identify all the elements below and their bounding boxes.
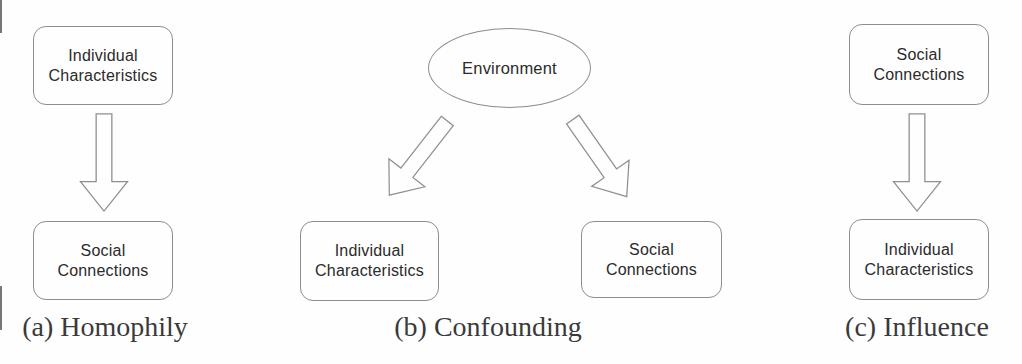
box-label-line: Characteristics (49, 66, 158, 86)
down-arrow-icon (78, 113, 130, 213)
ellipse-label: Environment (462, 59, 557, 78)
ellipse-environment: Environment (428, 28, 591, 108)
box-social-connections: Social Connections (849, 24, 989, 105)
box-label-line: Social (897, 45, 942, 65)
box-individual-characteristics: Individual Characteristics (33, 26, 173, 105)
box-label-line: Characteristics (865, 260, 974, 280)
box-individual-characteristics: Individual Characteristics (300, 221, 439, 301)
down-left-arrow-icon (368, 104, 469, 212)
box-label-line: Connections (873, 65, 964, 85)
down-right-arrow-icon (551, 104, 649, 213)
box-label-line: Individual (68, 46, 138, 66)
caption-homophily: (a) Homophily (5, 311, 205, 343)
box-label-line: Connections (57, 261, 148, 281)
box-label-line: Individual (884, 240, 954, 260)
scan-artifact-top-left (0, 0, 2, 33)
box-individual-characteristics: Individual Characteristics (849, 219, 989, 300)
caption-confounding: (b) Confounding (388, 311, 588, 343)
causal-diagrams-figure: Individual Characteristics Social Connec… (0, 0, 1022, 364)
box-label-line: Characteristics (315, 261, 424, 281)
caption-influence: (c) Influence (817, 311, 1017, 343)
box-social-connections: Social Connections (33, 221, 173, 300)
box-label-line: Social (81, 241, 126, 261)
box-social-connections: Social Connections (581, 221, 722, 298)
scan-artifact-bottom-left (0, 286, 2, 330)
down-arrow-icon (891, 113, 943, 213)
box-label-line: Connections (606, 260, 697, 280)
box-label-line: Individual (335, 241, 405, 261)
box-label-line: Social (629, 240, 674, 260)
